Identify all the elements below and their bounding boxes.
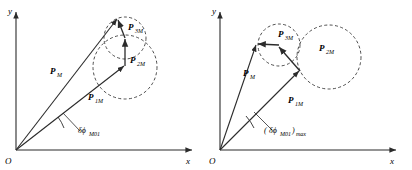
vector-P-M-line [16, 19, 117, 150]
origin-label: O [209, 156, 216, 166]
svg-text:δϕ: δϕ [78, 126, 86, 135]
vector-label-P-2M: P 2M [130, 55, 146, 67]
svg-text:3M: 3M [284, 35, 294, 41]
svg-text:P: P [319, 43, 325, 53]
vector-P-3M-line [258, 44, 279, 45]
svg-text:3M: 3M [134, 28, 144, 34]
svg-text:1M: 1M [295, 101, 304, 107]
figure-container: y x O P M P 1M P 2M P 3M δϕ M01 [0, 0, 412, 170]
svg-text:P: P [278, 29, 284, 39]
x-axis-label: x [185, 156, 190, 166]
svg-text:P: P [243, 68, 249, 78]
angle-label-left: δϕ M01 [78, 126, 100, 137]
vector-P-M-line [220, 45, 256, 150]
vector-P-1M-line [220, 71, 299, 150]
origin-label: O [5, 156, 12, 166]
vector-label-P-3M: P 3M [128, 22, 144, 34]
diagram-panel-right: y x O P M P 1M P 2M P 3M ( δϕ M01 [206, 0, 412, 170]
svg-text:P: P [50, 66, 56, 76]
svg-text:M: M [56, 72, 63, 78]
svg-text:M: M [249, 74, 256, 80]
svg-text:max: max [296, 131, 306, 137]
vector-label-P-2M: P 2M [319, 43, 335, 55]
svg-text:P: P [288, 95, 294, 105]
vector-P-1M-line [16, 66, 124, 150]
y-axis-label: y [211, 6, 216, 16]
svg-text:2M: 2M [137, 61, 146, 67]
vector-label-P-3M: P 3M [278, 29, 294, 41]
uncertainty-circle-large [297, 25, 361, 89]
svg-text:P: P [88, 92, 94, 102]
vector-label-P-1M: P 1M [288, 95, 304, 107]
svg-text:2M: 2M [326, 49, 335, 55]
angle-arc [58, 117, 64, 128]
right-panel-svg: y x O P M P 1M P 2M P 3M ( δϕ M01 [206, 0, 412, 170]
svg-text:P: P [128, 22, 134, 32]
svg-text:δϕ: δϕ [269, 126, 277, 135]
svg-text:1M: 1M [95, 98, 104, 104]
svg-text:(: ( [264, 126, 268, 135]
y-axis-label: y [7, 6, 12, 16]
svg-text:P: P [130, 55, 136, 65]
svg-text:): ) [291, 126, 295, 135]
vector-label-P-M: P M [50, 66, 63, 78]
vector-label-P-1M: P 1M [88, 92, 104, 104]
svg-text:M01: M01 [88, 131, 100, 137]
svg-text:M01: M01 [279, 131, 291, 137]
diagram-panel-left: y x O P M P 1M P 2M P 3M δϕ M01 [0, 0, 206, 170]
angle-label-right: ( δϕ M01 ) max [264, 126, 306, 137]
left-panel-svg: y x O P M P 1M P 2M P 3M δϕ M01 [0, 0, 206, 170]
x-axis-label: x [389, 156, 394, 166]
